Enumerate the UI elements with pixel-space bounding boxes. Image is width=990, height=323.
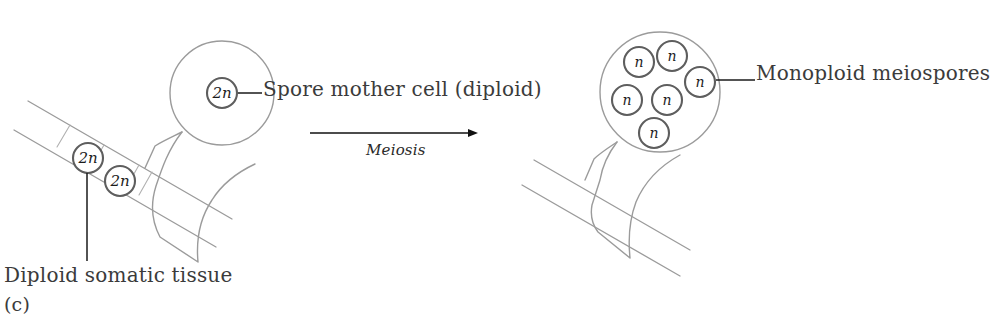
meiospore-1: n <box>624 47 654 77</box>
tissue-divider-1 <box>57 125 70 147</box>
meiospore-3-label: n <box>695 74 704 90</box>
tissue-divider-4 <box>139 172 152 195</box>
left-sporangium-body <box>153 132 255 262</box>
spore-mother-nucleus-label: 2n <box>211 84 231 102</box>
somatic-nucleus-2: 2n <box>105 166 135 196</box>
meiosis-arrow <box>310 129 478 137</box>
somatic-nucleus-2-label: 2n <box>109 172 129 190</box>
left-sporangium-outline <box>145 41 274 262</box>
meiospore-5: n <box>652 85 682 115</box>
meiosis-arrow-head <box>468 129 478 137</box>
meiospore-2-label: n <box>667 48 676 64</box>
somatic-nucleus-1-label: 2n <box>77 149 97 167</box>
meiospore-5-label: n <box>662 92 671 108</box>
meiospore-3: n <box>685 67 715 97</box>
spore-mother-nucleus: 2n <box>207 78 237 108</box>
meiospore-4: n <box>612 85 642 115</box>
somatic-nucleus-1: 2n <box>73 143 103 173</box>
label-spore-mother-cell: Spore mother cell (diploid) <box>263 77 542 101</box>
label-meiosis-process: Meiosis <box>366 141 426 159</box>
meiospore-2: n <box>657 41 687 71</box>
right-somatic-tissue-band <box>522 160 690 276</box>
meiospore-6: n <box>639 118 669 148</box>
meiospore-4-label: n <box>622 92 631 108</box>
label-monoploid-meiospores: Monoploid meiospores <box>756 61 990 85</box>
panel-caption: (c) <box>4 293 30 315</box>
meiospore-6-label: n <box>649 125 658 141</box>
label-diploid-somatic-tissue: Diploid somatic tissue <box>4 263 233 287</box>
meiospore-1-label: n <box>634 54 643 70</box>
left-stalk-junction <box>145 132 182 168</box>
tissue-upper-edge-left <box>28 101 232 219</box>
